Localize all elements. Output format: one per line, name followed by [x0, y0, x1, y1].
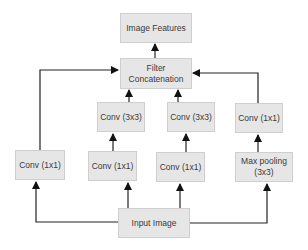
- edge-conv1x1pool-to-concat: [193, 73, 258, 103]
- node-conv1x1-direct: Conv (1x1): [15, 150, 65, 180]
- node-conv1x1-b: Conv (1x1): [156, 152, 205, 182]
- node-label: Input Image: [132, 218, 177, 229]
- node-label: Conv (1x1): [238, 113, 280, 124]
- node-label: Conv (3x3): [100, 112, 142, 123]
- edge-input-to-maxpool: [190, 184, 267, 223]
- node-label: Conv (3x3): [170, 112, 212, 123]
- node-conv3x3-a: Conv (3x3): [97, 102, 145, 132]
- node-label: Conv (1x1): [19, 160, 61, 171]
- node-conv1x1-pool-proj: Conv (1x1): [235, 103, 283, 133]
- edge-input-to-conv1x1direct: [36, 182, 118, 222]
- node-filter-concatenation: Filter Concatenation: [120, 58, 192, 89]
- node-label: Image Features: [126, 23, 186, 34]
- node-label: Filter Concatenation: [129, 63, 184, 85]
- node-label: Max pooling (3x3): [241, 156, 287, 178]
- node-image-features: Image Features: [120, 13, 192, 43]
- node-label: Conv (1x1): [92, 161, 134, 172]
- node-input-image: Input Image: [118, 208, 190, 238]
- node-max-pooling: Max pooling (3x3): [235, 152, 293, 182]
- node-conv1x1-a: Conv (1x1): [88, 151, 137, 181]
- node-label: Conv (1x1): [160, 162, 202, 173]
- node-conv3x3-b: Conv (3x3): [167, 102, 215, 132]
